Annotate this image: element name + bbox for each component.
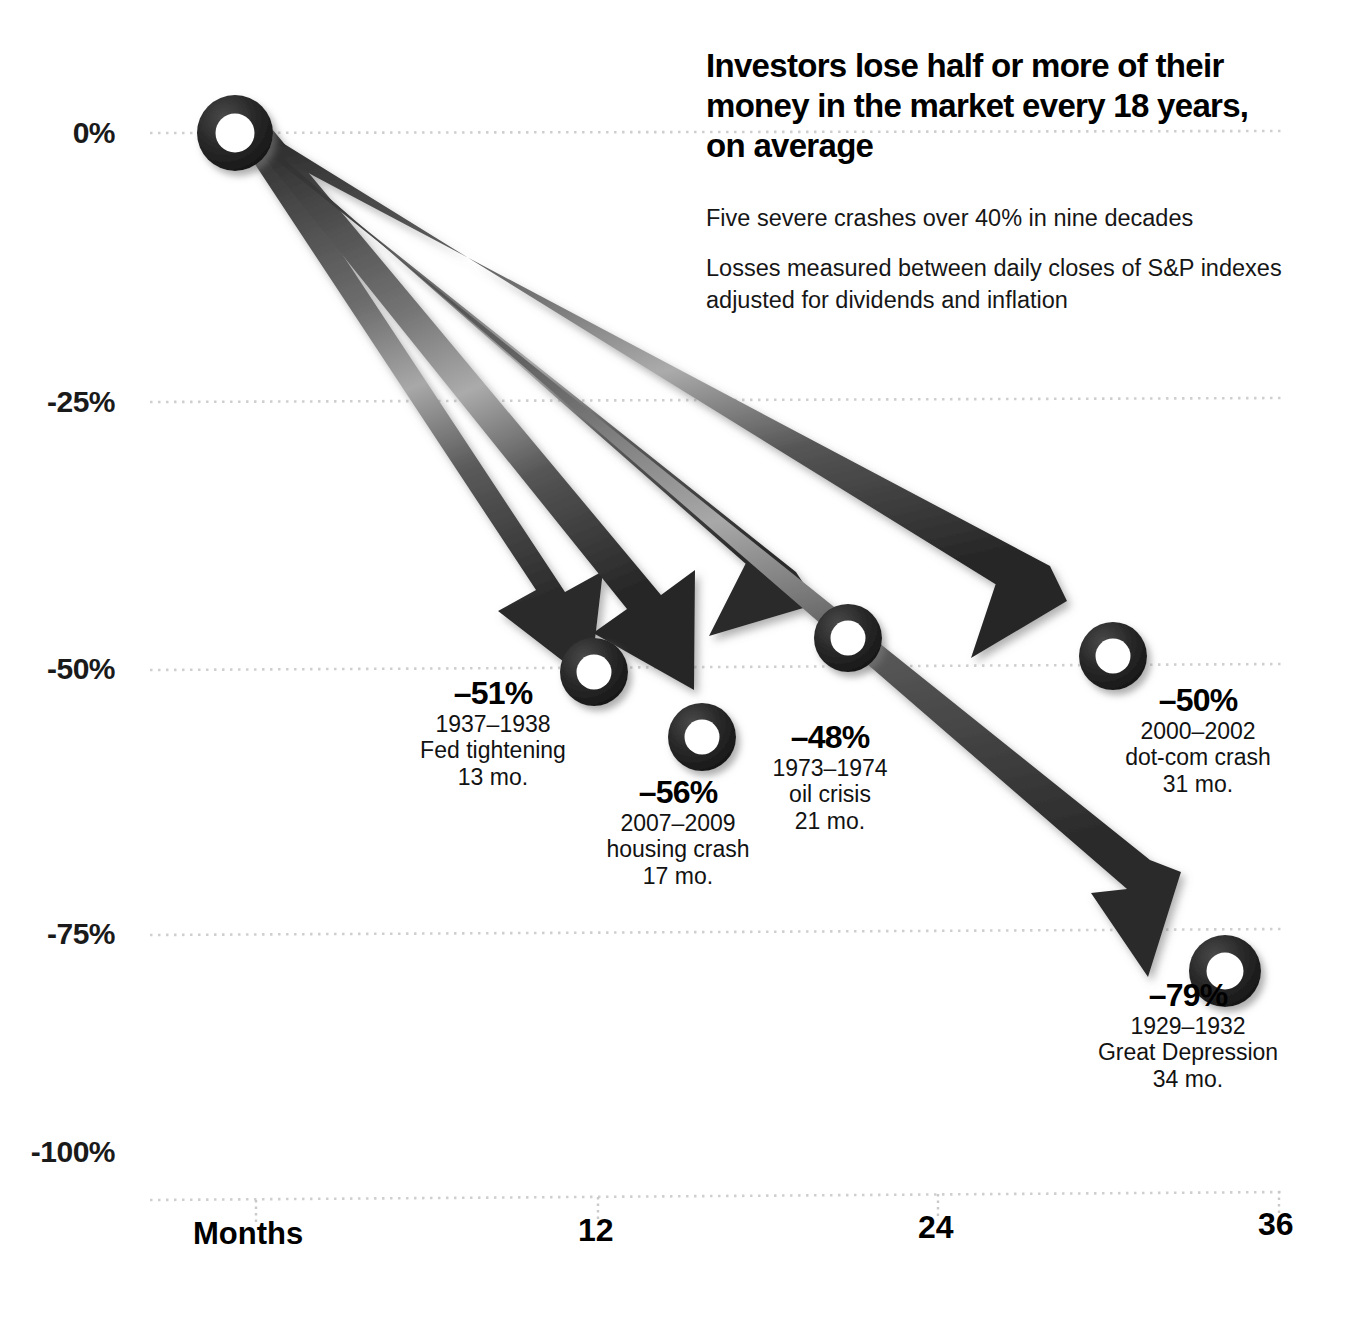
annotation-event: Great Depression: [1078, 1039, 1298, 1066]
x-tick-label-24: 24: [918, 1209, 954, 1246]
x-tick-label-36: 36: [1258, 1206, 1294, 1243]
annotation-duration: 21 mo.: [740, 808, 920, 835]
annotation-years: 1929–1932: [1078, 1013, 1298, 1040]
annotation-value: –79%: [1078, 978, 1298, 1013]
page-title: Investors lose half or more of their mon…: [706, 46, 1266, 166]
marker-origin: [197, 95, 273, 171]
x-tick-label-12: 12: [578, 1212, 614, 1249]
annotation-oil-crisis: –48% 1973–1974 oil crisis 21 mo.: [740, 720, 920, 835]
annotation-fed-tightening: –51% 1937–1938 Fed tightening 13 mo.: [398, 676, 588, 791]
marker-oil-crisis: [814, 604, 882, 672]
annotation-years: 2000–2002: [1098, 718, 1298, 745]
subtitle-primary: Five severe crashes over 40% in nine dec…: [706, 203, 1306, 234]
annotation-duration: 31 mo.: [1098, 771, 1298, 798]
annotation-duration: 17 mo.: [578, 863, 778, 890]
annotation-event: housing crash: [578, 836, 778, 863]
axis-baseline: [150, 1192, 1285, 1200]
chart-canvas: [0, 0, 1360, 1320]
annotation-duration: 13 mo.: [398, 764, 588, 791]
annotation-event: oil crisis: [740, 781, 920, 808]
y-tick-label-0: 0%: [0, 116, 115, 150]
x-axis-title: Months: [193, 1216, 303, 1252]
arrow-housing-crash: [246, 129, 695, 690]
annotation-value: –48%: [740, 720, 920, 755]
annotation-duration: 34 mo.: [1078, 1066, 1298, 1093]
annotation-event: Fed tightening: [398, 737, 588, 764]
y-tick-label-100: -100%: [0, 1135, 115, 1169]
annotation-value: –50%: [1098, 683, 1298, 718]
annotation-value: –51%: [398, 676, 588, 711]
annotation-great-depression: –79% 1929–1932 Great Depression 34 mo.: [1078, 978, 1298, 1093]
arrow-fed-tightening: [239, 131, 603, 682]
gridline-75: [150, 929, 1285, 935]
marker-housing-crash: [668, 703, 736, 771]
annotation-dotcom-crash: –50% 2000–2002 dot-com crash 31 mo.: [1098, 683, 1298, 798]
chart-root: 0% -25% -50% -75% -100% Months 12 24 36 …: [0, 0, 1360, 1320]
y-tick-label-50: -50%: [0, 652, 115, 686]
y-tick-label-75: -75%: [0, 917, 115, 951]
marker-dotcom-crash: [1079, 622, 1147, 690]
annotation-years: 1937–1938: [398, 711, 588, 738]
y-tick-label-25: -25%: [0, 385, 115, 419]
annotation-years: 1973–1974: [740, 755, 920, 782]
annotation-event: dot-com crash: [1098, 744, 1298, 771]
subtitle-secondary: Losses measured between daily closes of …: [706, 253, 1286, 316]
